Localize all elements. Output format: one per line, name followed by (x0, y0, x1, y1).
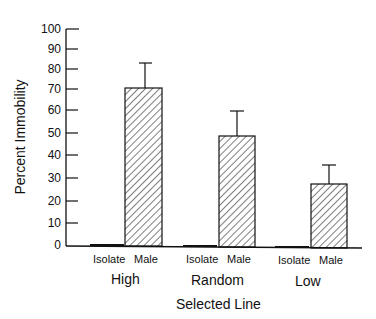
label-low-isolate: Isolate (278, 254, 310, 266)
group-labels: High Random Low (111, 271, 322, 289)
label-random-male: Male (227, 253, 251, 265)
y-tick-10: 10 (48, 216, 62, 230)
y-tick-90: 90 (48, 42, 62, 56)
group-high (90, 63, 162, 246)
bar-chart: 0 10 20 30 40 50 60 70 80 90 100 Percent… (0, 0, 376, 319)
bar-low-isolate (275, 246, 309, 248)
y-tick-80: 80 (48, 62, 62, 76)
bar-high-male (125, 88, 162, 246)
label-high-male: Male (134, 253, 158, 265)
group-label-low: Low (295, 273, 322, 289)
group-random (183, 111, 255, 247)
bar-low-male (311, 184, 347, 248)
y-tick-30: 30 (48, 171, 62, 185)
label-low-male: Male (319, 254, 343, 266)
group-label-random: Random (191, 272, 244, 288)
group-low (275, 165, 347, 248)
bar-high-isolate (90, 244, 124, 246)
y-tick-40: 40 (48, 148, 62, 162)
category-labels: Isolate Male Isolate Male Isolate Male (93, 253, 343, 266)
y-ticks (66, 29, 79, 223)
y-tick-labels: 0 10 20 30 40 50 60 70 80 90 100 (41, 22, 61, 252)
y-tick-20: 20 (48, 194, 62, 208)
y-tick-0: 0 (54, 238, 61, 252)
label-random-isolate: Isolate (186, 253, 218, 265)
y-axis-title: Percent Immobility (12, 79, 28, 194)
y-tick-60: 60 (48, 103, 62, 117)
y-tick-50: 50 (48, 126, 62, 140)
bar-random-isolate (183, 245, 217, 247)
y-tick-100: 100 (41, 22, 61, 36)
label-high-isolate: Isolate (93, 253, 125, 265)
bar-random-male (219, 136, 255, 247)
group-label-high: High (111, 271, 140, 287)
y-tick-70: 70 (48, 82, 62, 96)
x-axis-title: Selected Line (176, 296, 261, 312)
